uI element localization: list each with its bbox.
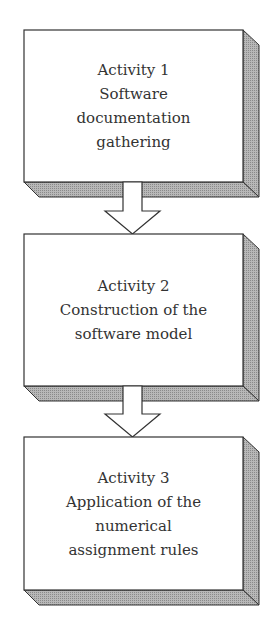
activity-1-label: Activity 1 Software documentation gather… bbox=[24, 30, 243, 182]
activity-3-label: Activity 3 Application of the numerical … bbox=[24, 437, 243, 590]
flowchart: Activity 1 Software documentation gather… bbox=[0, 0, 276, 636]
activity-1-title: Activity 1 bbox=[97, 58, 169, 82]
activity-3-shadow-bottom bbox=[24, 590, 259, 605]
activity-2-line: Construction of the bbox=[60, 298, 207, 322]
activity-3-line: assignment rules bbox=[68, 538, 198, 562]
activity-2-label: Activity 2 Construction of the software … bbox=[24, 234, 243, 386]
activity-2-title: Activity 2 bbox=[97, 274, 169, 298]
activity-3-shadow-right bbox=[243, 437, 259, 605]
activity-1-line: documentation bbox=[77, 106, 191, 130]
activity-3-title: Activity 3 bbox=[97, 466, 169, 490]
activity-1-shadow-right bbox=[243, 30, 259, 197]
activity-2-line: software model bbox=[75, 322, 192, 346]
activity-2-shadow-right bbox=[243, 234, 259, 401]
activity-1-line: gathering bbox=[96, 130, 170, 154]
activity-3-line: numerical bbox=[95, 514, 172, 538]
activity-3-line: Application of the bbox=[66, 490, 201, 514]
activity-1-line: Software bbox=[99, 82, 168, 106]
